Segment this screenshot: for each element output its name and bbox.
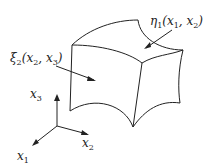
eta-arrowhead: [144, 42, 151, 49]
right-bottom-edge: [133, 102, 180, 127]
curved-block-diagram: η1(x1, x2) ξ2(x2, x3) x3 x2 x1: [0, 0, 214, 166]
xi-arrowhead: [87, 76, 96, 81]
front-bottom-edge: [70, 103, 133, 127]
x2-arrowhead: [81, 130, 89, 135]
x3-label: x3: [30, 88, 42, 103]
right-back-edge: [179, 50, 183, 103]
eta-label: η1(x1, x2): [150, 15, 203, 30]
top-face-front-edge: [72, 45, 142, 63]
xi-label: ξ2(x2, x3): [10, 52, 62, 67]
x3-arrowhead: [54, 94, 60, 101]
x1-arrowhead: [32, 139, 39, 146]
front-left-edge: [70, 45, 72, 111]
x1-label: x1: [17, 150, 29, 165]
x2-label: x2: [82, 137, 94, 152]
top-right-edge: [142, 50, 183, 63]
top-face-back-edge: [72, 20, 138, 45]
